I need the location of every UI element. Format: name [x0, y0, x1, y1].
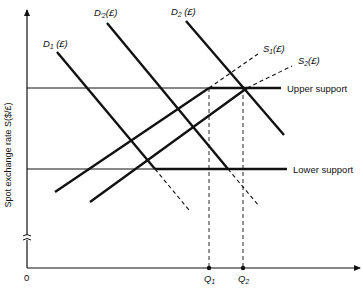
upper-support-label: Upper support — [287, 83, 348, 94]
s1-label: S1(£) — [263, 43, 285, 55]
s2-curve — [90, 88, 247, 202]
lower-support-label: Lower support — [293, 164, 354, 175]
d2-curve — [186, 21, 284, 135]
exchange-rate-support-diagram: D1 (£) D′2(£) D2 (£) S1(£) S2(£) Upper s… — [0, 0, 363, 288]
d2-label: D2 (£) — [171, 6, 196, 18]
d1-curve — [57, 52, 155, 169]
y-axis-label: Spot exchange rate S($/£) — [3, 102, 13, 207]
s1-curve — [55, 88, 209, 192]
s2-curve-dashed — [247, 66, 292, 88]
q2-label: Q2 — [238, 273, 249, 285]
s1-curve-dashed — [209, 54, 258, 88]
axis-break-icon — [22, 235, 32, 241]
q2-point — [241, 266, 245, 270]
origin-label: 0 — [24, 272, 29, 283]
q1-label: Q1 — [204, 273, 215, 285]
d2prime-label: D′2(£) — [94, 7, 117, 19]
d1-label: D1 (£) — [43, 38, 68, 50]
d2prime-curve-dashed — [228, 169, 259, 206]
d1-curve-dashed — [155, 169, 189, 210]
s2-label: S2(£) — [298, 55, 320, 67]
q1-point — [207, 266, 211, 270]
